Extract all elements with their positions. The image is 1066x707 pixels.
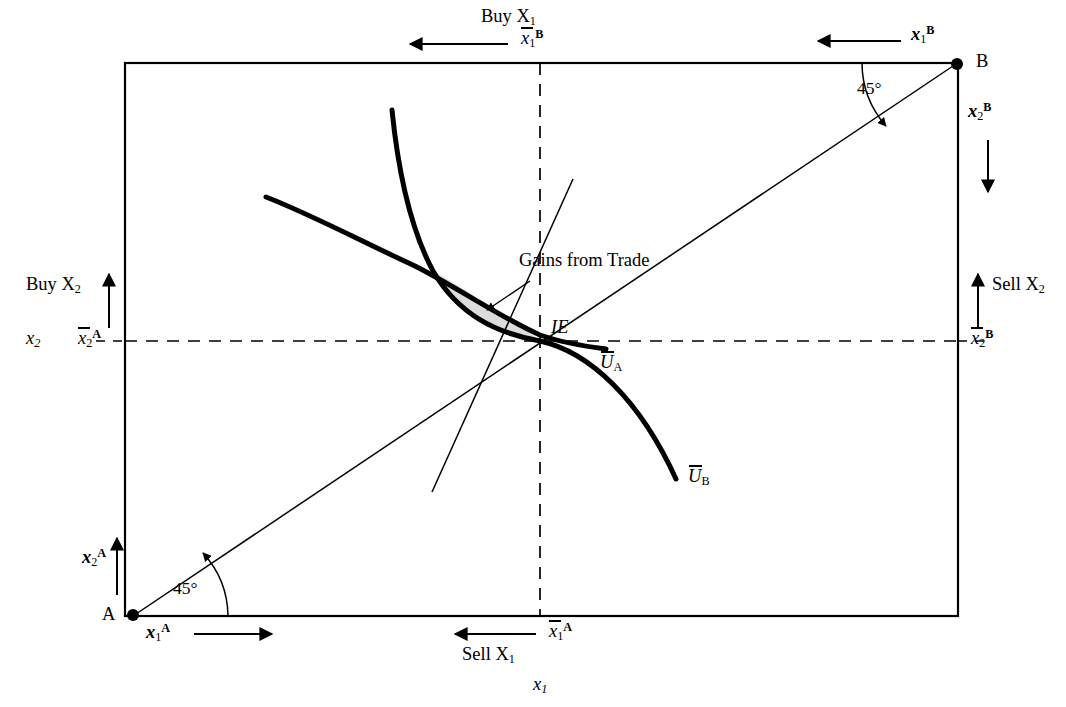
label-sell-x1: Sell X1 (462, 644, 515, 667)
label-x2bar-b: x2B (971, 327, 993, 351)
label-corner-b: B (976, 51, 988, 72)
overbar-ub (689, 465, 702, 466)
overbar-x1bar-b (521, 27, 532, 28)
label-angle-a: 45° (173, 578, 198, 599)
label-x1-b: x1B (911, 23, 935, 47)
overbar-x2bar-b (971, 327, 982, 328)
label-sell-x2: Sell X2 (992, 274, 1045, 297)
label-x1bar-b: x1B (521, 27, 543, 51)
label-buy-x2: Buy X2 (26, 274, 81, 297)
label-interior-equilibrium: IE (551, 317, 568, 338)
origin-a-dot (127, 609, 139, 621)
label-x1bar-a: x1A (549, 620, 572, 644)
label-angle-b: 45° (857, 78, 882, 99)
overbar-x1bar-a (549, 620, 560, 621)
label-curve-ub: UB (688, 466, 710, 489)
label-x1-a: x1A (146, 621, 170, 645)
indifference-curve-ub (392, 110, 676, 479)
label-curve-ua: UA (600, 352, 622, 375)
label-x2-a: x2A (82, 546, 106, 570)
edgeworth-box-svg (0, 0, 1066, 707)
label-x2bar-a: x2A (78, 327, 101, 351)
label-buy-x1: Buy X1 (481, 6, 536, 29)
label-axis-x2: x2 (26, 328, 40, 351)
origin-b-dot (951, 58, 963, 70)
overbar-x2bar-a (78, 327, 89, 328)
label-x2-b: x2B (968, 100, 992, 124)
overbar-ua (601, 351, 614, 352)
gains-from-trade-pointer (487, 281, 530, 310)
figure-canvas: Buy X1 x1B x1B B 45° x2B Buy X2 x2 x2A S… (0, 0, 1066, 707)
label-corner-a: A (102, 604, 115, 625)
label-axis-x1: x1 (533, 674, 547, 697)
label-gains-from-trade: Gains from Trade (519, 250, 650, 271)
angle-arc-a (203, 553, 228, 616)
